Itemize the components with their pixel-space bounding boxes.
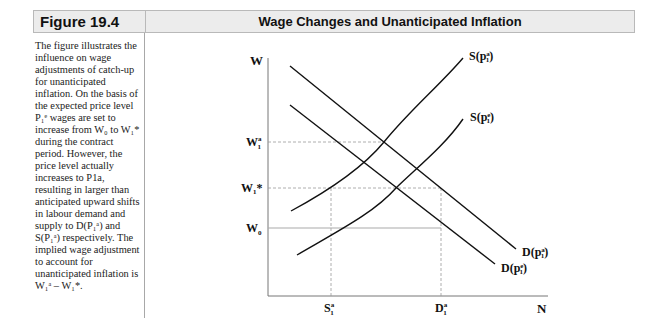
demand-curve-pa — [290, 66, 516, 249]
s1a-label: Sa1 — [324, 301, 335, 317]
x-axis-label: N — [537, 301, 547, 316]
supply-curve-pa — [291, 58, 463, 211]
w0-label: W0 — [246, 221, 262, 237]
w1star-label: W₁* — [241, 181, 263, 195]
demand-curve-pe — [290, 105, 495, 264]
wage-chart: W N Wa1 W₁* W0 Sa1 Da1 S(pa1) S(pe1) D(p… — [0, 0, 662, 334]
supply-pa-label: S(pa1) — [469, 49, 493, 64]
y-axis-label: W — [250, 53, 263, 68]
demand-pa-label: D(pa1) — [522, 245, 548, 260]
demand-pe-label: D(pe1) — [501, 261, 527, 276]
supply-pe-label: S(pe1) — [470, 110, 494, 125]
d1a-label: Da1 — [435, 301, 448, 317]
w1a-label: Wa1 — [246, 135, 262, 151]
